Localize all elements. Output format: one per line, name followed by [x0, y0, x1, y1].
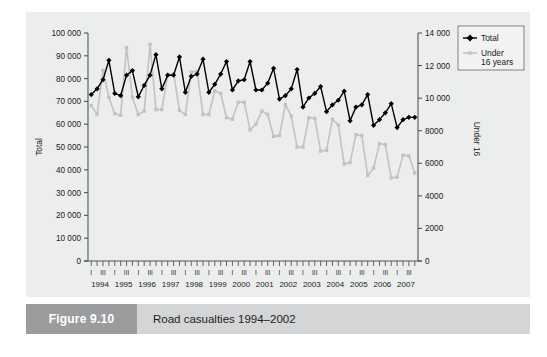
svg-text:I: I — [396, 269, 398, 276]
svg-text:III: III — [312, 269, 318, 276]
svg-text:2007: 2007 — [397, 280, 415, 289]
svg-text:III: III — [383, 269, 389, 276]
svg-text:I: I — [114, 269, 116, 276]
right-axis-ticks: 0200040006000800010 00012 00014 000 — [418, 29, 450, 266]
left-axis-ticks: 010 00020 00030 00040 00050 00060 00070 … — [51, 29, 88, 266]
svg-text:III: III — [265, 269, 271, 276]
svg-text:I: I — [373, 269, 375, 276]
svg-text:6000: 6000 — [425, 159, 444, 168]
svg-text:20 000: 20 000 — [56, 211, 81, 220]
quarter-labels: IIIIIIIIIIIIIIIIIIIIIIIIIIIIIIIIIIIIIIII… — [90, 269, 411, 276]
svg-text:III: III — [336, 269, 342, 276]
svg-text:III: III — [124, 269, 130, 276]
svg-text:2004: 2004 — [326, 280, 344, 289]
svg-text:0: 0 — [76, 257, 81, 266]
svg-text:III: III — [406, 269, 412, 276]
figure-caption-label: Road casualties 1994–2002 — [153, 313, 296, 325]
svg-text:I: I — [349, 269, 351, 276]
svg-text:30 000: 30 000 — [56, 189, 81, 198]
svg-text:III: III — [147, 269, 153, 276]
svg-text:1999: 1999 — [209, 280, 227, 289]
svg-text:Under 16: Under 16 — [472, 122, 482, 157]
figure-number-label: Figure 9.10 — [49, 312, 115, 326]
svg-text:I: I — [161, 269, 163, 276]
chart-legend: TotalUnder16 years — [458, 26, 524, 70]
svg-text:I: I — [184, 269, 186, 276]
svg-text:I: I — [90, 269, 92, 276]
figure-caption-text-box: Road casualties 1994–2002 — [137, 304, 530, 334]
svg-text:III: III — [359, 269, 365, 276]
svg-text:90 000: 90 000 — [56, 52, 81, 61]
svg-text:I: I — [302, 269, 304, 276]
svg-text:4000: 4000 — [425, 192, 444, 201]
svg-text:2001: 2001 — [256, 280, 274, 289]
x-axis-ticks — [91, 261, 415, 266]
axis-lines — [84, 33, 422, 261]
svg-text:1995: 1995 — [115, 280, 133, 289]
svg-text:70 000: 70 000 — [56, 97, 81, 106]
svg-text:I: I — [326, 269, 328, 276]
svg-text:100 000: 100 000 — [51, 29, 81, 38]
figure-container: 010 00020 00030 00040 00050 00060 00070 … — [0, 0, 547, 357]
svg-text:2005: 2005 — [350, 280, 368, 289]
svg-text:I: I — [232, 269, 234, 276]
axis-titles: TotalUnder 16 — [34, 122, 482, 157]
svg-text:2006: 2006 — [374, 280, 392, 289]
svg-text:III: III — [218, 269, 224, 276]
svg-text:III: III — [289, 269, 295, 276]
svg-text:1994: 1994 — [91, 280, 109, 289]
svg-text:40 000: 40 000 — [56, 166, 81, 175]
series-total — [89, 52, 418, 130]
svg-text:2002: 2002 — [279, 280, 297, 289]
svg-text:14 000: 14 000 — [425, 29, 450, 38]
svg-text:0: 0 — [425, 257, 430, 266]
svg-text:III: III — [100, 269, 106, 276]
svg-text:1996: 1996 — [138, 280, 156, 289]
svg-text:Total: Total — [34, 138, 44, 156]
svg-text:Total: Total — [481, 33, 499, 43]
road-casualties-line-chart: 010 00020 00030 00040 00050 00060 00070 … — [26, 12, 530, 297]
svg-text:1997: 1997 — [162, 280, 180, 289]
svg-text:III: III — [242, 269, 248, 276]
svg-text:16 years: 16 years — [481, 57, 513, 67]
svg-text:10 000: 10 000 — [56, 234, 81, 243]
svg-text:10 000: 10 000 — [425, 94, 450, 103]
series-under-16 — [90, 43, 417, 180]
svg-text:80 000: 80 000 — [56, 75, 81, 84]
svg-text:2000: 2000 — [425, 224, 444, 233]
svg-text:2003: 2003 — [303, 280, 321, 289]
svg-text:I: I — [279, 269, 281, 276]
year-labels: 1994199519961997199819992000200120022003… — [91, 280, 415, 289]
svg-text:50 000: 50 000 — [56, 143, 81, 152]
svg-text:2000: 2000 — [232, 280, 250, 289]
svg-text:I: I — [255, 269, 257, 276]
svg-text:III: III — [194, 269, 200, 276]
svg-text:III: III — [171, 269, 177, 276]
svg-text:8000: 8000 — [425, 127, 444, 136]
svg-text:60 000: 60 000 — [56, 120, 81, 129]
svg-text:I: I — [137, 269, 139, 276]
chart-panel: 010 00020 00030 00040 00050 00060 00070 … — [26, 12, 530, 297]
svg-text:1998: 1998 — [185, 280, 203, 289]
svg-text:I: I — [208, 269, 210, 276]
svg-text:12 000: 12 000 — [425, 62, 450, 71]
figure-number-box: Figure 9.10 — [26, 304, 137, 334]
figure-caption-bar: Figure 9.10 Road casualties 1994–2002 — [26, 304, 530, 334]
